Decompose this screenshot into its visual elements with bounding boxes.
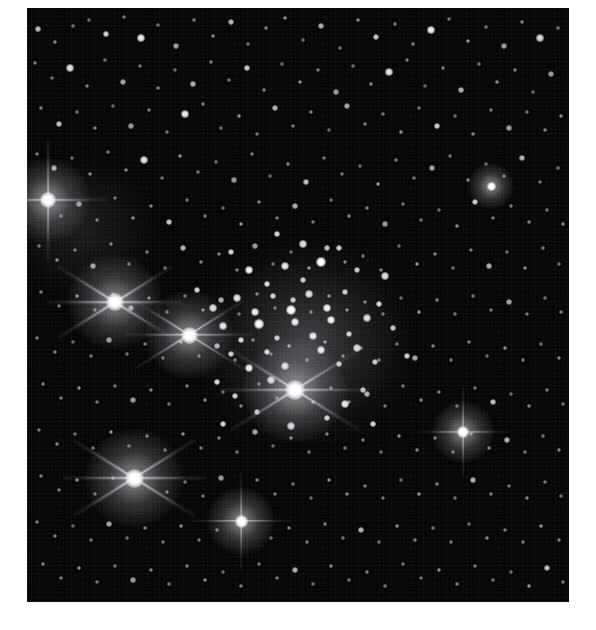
page-root [0,0,596,630]
star-field-plate [27,8,569,602]
caption [27,606,569,620]
sky-background [27,8,569,602]
